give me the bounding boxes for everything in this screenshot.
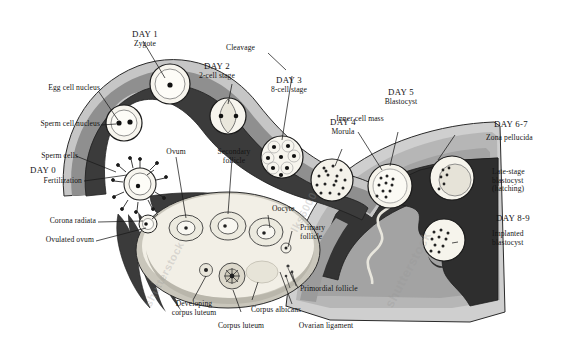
label-day1: DAY 1 [110,30,180,39]
label-day0: DAY 0 [30,166,56,175]
label-late-stage-blastocyst: Late-stage blastocyst (hatching) [492,168,525,194]
label-corona-radiata: Corona radiata [14,217,96,226]
stage-day67-hatching-blastocyst [430,156,474,200]
label-inner-cell-mass: Inner cell mass [300,115,420,124]
stage-day3-eight-cell [261,136,303,178]
label-day3-sub: 8-cell stage [254,86,324,95]
label-ovum: Ovum [156,148,196,157]
sperm-cell-nucleus-dot [116,120,121,125]
label-ovarian-ligament: Ovarian ligament [276,322,376,331]
corpus-albicans-body [246,261,278,283]
label-fertilization: Fertilization [16,177,82,186]
label-corpus-luteum: Corpus luteum [198,322,284,331]
label-ovulated-ovum: Ovulated ovum [12,236,94,245]
diagram-canvas: DAY 1 Zygote DAY 2 2-cell stage Cleavage… [0,0,568,360]
label-sperm-cell-nucleus: Sperm cell nucleus [4,120,100,129]
label-primary-follicle: Primary follicle [300,224,325,241]
label-day67: DAY 6-7 [494,120,528,129]
stage-day5-blastocyst [368,164,412,208]
label-cleavage: Cleavage [226,44,255,53]
label-oocyte: Oocyte [272,205,295,214]
label-day67-sub: Zona pellucida [486,134,533,143]
label-day5: DAY 5 [368,88,434,97]
corpus-luteum [219,263,245,289]
developing-corpus-luteum [200,264,213,277]
label-corpus-albicans: Corpus albicans [230,306,322,315]
label-day89: DAY 8-9 [496,214,530,223]
label-day1-sub: Zygote [110,40,180,49]
label-sperm-cells: Sperm cells [16,152,78,161]
label-primordial-follicle: Primordial follicle [300,285,358,294]
stage-day1-zygote [150,64,190,104]
label-day5-sub: Blastocyst [368,98,434,107]
label-day3: DAY 3 [258,76,320,85]
label-day2: DAY 2 [186,62,248,71]
label-developing-corpus-luteum: Developing corpus luteum [156,300,232,317]
zona-pellucida-ring [439,164,471,196]
label-day2-sub: 2-cell stage [182,72,252,81]
label-secondary-follicle: Secondary follicle [206,148,262,165]
stage-day4-morula [311,159,353,201]
egg-cell-nucleus-dot [127,119,132,124]
ovulated-ovum [139,214,158,233]
label-day89-sub: Implanted blastocyst [492,230,524,247]
label-egg-cell-nucleus: Egg cell nucleus [12,84,100,93]
label-day4-sub: Morula [310,128,376,137]
